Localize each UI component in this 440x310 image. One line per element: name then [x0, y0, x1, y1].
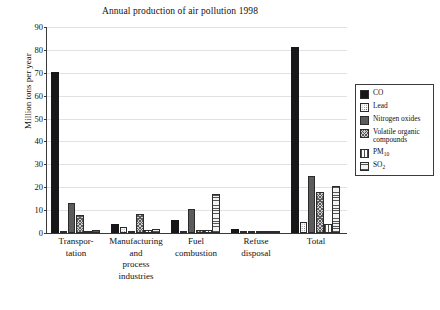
bar-series-container	[47, 27, 347, 233]
bar	[240, 231, 248, 233]
legend-swatch-icon	[360, 103, 369, 112]
bar	[111, 224, 119, 233]
bar	[196, 230, 204, 233]
legend-item-label: SO2	[373, 161, 385, 169]
bar	[68, 203, 76, 233]
bar	[231, 229, 239, 233]
x-axis-category-label: Total	[274, 236, 358, 248]
legend-item-label: Lead	[373, 102, 388, 110]
bar	[272, 231, 280, 233]
bar-group	[287, 27, 347, 233]
y-axis-tick-mark	[44, 233, 47, 234]
y-axis-tick-label: 70	[35, 68, 44, 78]
bar-group	[167, 27, 227, 233]
y-axis-tick-label: 10	[35, 205, 44, 215]
y-axis-tick-label: 30	[35, 159, 44, 169]
chart-title: Annual production of air pollution 1998	[0, 6, 360, 16]
bar	[120, 227, 128, 233]
bar	[256, 231, 264, 233]
chart-legend: COLeadNitrogen oxidesVolatile organic co…	[355, 84, 434, 176]
bar	[60, 231, 68, 233]
bar	[212, 194, 220, 233]
y-axis-tick-label: 40	[35, 136, 44, 146]
bar	[204, 230, 212, 233]
x-axis-category-labels: Transpor-tationManufacturingandprocessin…	[46, 236, 346, 306]
bar	[51, 72, 59, 233]
bar-group	[47, 27, 107, 233]
bar	[136, 214, 144, 233]
bar	[128, 231, 136, 233]
bar	[291, 47, 299, 233]
legend-item-label: CO	[373, 89, 383, 97]
bar	[308, 176, 316, 233]
bar	[84, 231, 92, 233]
bar	[171, 220, 179, 233]
legend-item-label: PM10	[373, 148, 389, 156]
legend-item-label: Volatile organic compounds	[373, 128, 430, 145]
plot-area: 0102030405060708090	[46, 27, 347, 234]
bar-group	[107, 27, 167, 233]
bar	[180, 231, 188, 233]
y-axis-tick-label: 50	[35, 114, 44, 124]
bar	[248, 231, 256, 233]
bar	[324, 224, 332, 233]
bar	[188, 209, 196, 233]
legend-item-label: Nitrogen oxides	[373, 115, 420, 123]
legend-item[interactable]: Lead	[360, 102, 430, 112]
legend-item[interactable]: Nitrogen oxides	[360, 115, 430, 125]
bar	[316, 192, 324, 233]
bar	[144, 230, 152, 233]
bar	[92, 230, 100, 233]
bar	[264, 231, 272, 233]
legend-swatch-icon	[360, 162, 369, 171]
y-axis-tick-label: 60	[35, 91, 44, 101]
bar	[332, 186, 340, 233]
y-axis-tick-label: 90	[35, 22, 44, 32]
legend-item[interactable]: SO2	[360, 161, 430, 171]
legend-swatch-icon	[360, 129, 369, 138]
legend-item[interactable]: Volatile organic compounds	[360, 128, 430, 145]
legend-swatch-icon	[360, 116, 369, 125]
legend-swatch-icon	[360, 149, 369, 158]
bar	[76, 215, 84, 233]
y-axis-tick-label: 20	[35, 182, 44, 192]
bar-group	[227, 27, 287, 233]
chart-figure: Annual production of air pollution 1998 …	[0, 0, 440, 310]
y-axis-label: Million tons per year	[23, 16, 33, 166]
bar	[300, 222, 308, 233]
legend-swatch-icon	[360, 90, 369, 99]
legend-item[interactable]: PM10	[360, 148, 430, 158]
legend-item[interactable]: CO	[360, 89, 430, 99]
bar	[152, 229, 160, 233]
y-axis-tick-label: 80	[35, 45, 44, 55]
